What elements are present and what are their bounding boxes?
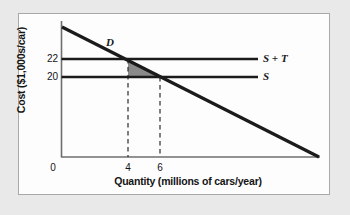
x-tick-label-0: 0 <box>46 162 60 173</box>
x-tick-label-6: 6 <box>153 162 167 173</box>
y-axis-title: Cost ($1,000s/car) <box>15 15 27 125</box>
x-axis-title: Quantity (millions of cars/year) <box>66 175 310 187</box>
supply-label: S <box>263 70 269 82</box>
demand-curve-label: D <box>106 36 114 48</box>
x-tick-label-4: 4 <box>121 162 135 173</box>
demand-curve <box>62 27 319 157</box>
supply-plus-tax-label: S + T <box>263 52 288 64</box>
y-tick-label-20: 20 <box>36 71 58 82</box>
y-tick-label-22: 22 <box>36 53 58 64</box>
